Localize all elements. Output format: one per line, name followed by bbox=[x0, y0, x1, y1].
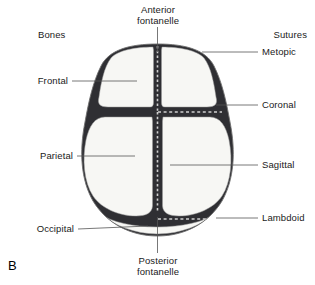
column-header-bones: Bones bbox=[38, 29, 65, 40]
figure-container: Bones Sutures Anterior fontanelle Poster… bbox=[0, 0, 315, 285]
label-anterior-fontanelle: Anterior fontanelle bbox=[112, 4, 204, 26]
skull-diagram bbox=[0, 0, 315, 285]
label-frontal: Frontal bbox=[0, 75, 68, 86]
bone-frontal-right bbox=[162, 47, 217, 107]
column-header-sutures: Sutures bbox=[274, 29, 307, 40]
label-anterior-fontanelle-line1: Anterior bbox=[112, 4, 204, 15]
bone-frontal-left bbox=[98, 47, 153, 107]
label-sagittal: Sagittal bbox=[262, 159, 295, 170]
label-occipital: Occipital bbox=[0, 223, 74, 234]
label-parietal: Parietal bbox=[0, 150, 73, 161]
label-coronal: Coronal bbox=[262, 99, 296, 110]
figure-letter: B bbox=[8, 258, 17, 273]
label-lambdoid: Lambdoid bbox=[262, 212, 305, 223]
label-anterior-fontanelle-line2: fontanelle bbox=[112, 15, 204, 26]
label-posterior-fontanelle: Posterior fontanelle bbox=[112, 255, 204, 277]
label-posterior-fontanelle-line2: fontanelle bbox=[112, 266, 204, 277]
label-metopic: Metopic bbox=[262, 46, 296, 57]
label-posterior-fontanelle-line1: Posterior bbox=[112, 255, 204, 266]
